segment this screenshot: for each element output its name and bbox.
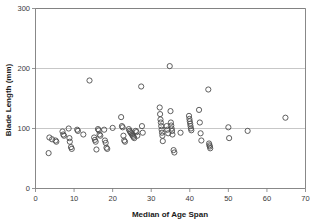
data-point <box>87 78 92 83</box>
data-points <box>46 64 288 156</box>
scatter-plot-figure: 010203040506070 0100200300 Median of Age… <box>0 0 310 223</box>
data-point <box>46 151 51 156</box>
y-tick-label-0: 0 <box>26 184 30 193</box>
x-tick-label-10: 10 <box>70 194 78 203</box>
data-point <box>69 146 74 151</box>
data-point <box>167 64 172 69</box>
data-point <box>140 130 145 135</box>
y-axis-title: Blade Length (mm) <box>4 63 13 136</box>
x-tick-labels: 010203040506070 <box>33 194 309 203</box>
data-point <box>121 133 126 138</box>
y-tick-label-100: 100 <box>17 124 30 133</box>
x-tick-label-0: 0 <box>33 194 37 203</box>
plot-frame <box>36 9 306 189</box>
y-tick-label-200: 200 <box>17 64 30 73</box>
x-tick-label-70: 70 <box>301 194 309 203</box>
data-point <box>168 109 173 114</box>
data-point <box>119 115 124 120</box>
data-point <box>196 107 201 112</box>
data-point <box>198 131 203 136</box>
x-axis-title: Median of Age Span <box>132 210 208 219</box>
x-tick-label-40: 40 <box>186 194 194 203</box>
data-point <box>94 147 99 152</box>
x-tick-label-30: 30 <box>147 194 155 203</box>
data-point <box>160 139 165 144</box>
data-point <box>199 138 204 143</box>
x-tick-label-20: 20 <box>108 194 116 203</box>
x-tick-label-60: 60 <box>263 194 271 203</box>
data-point <box>67 139 72 144</box>
data-point <box>178 130 183 135</box>
x-tick-label-50: 50 <box>224 194 232 203</box>
data-point <box>139 124 144 129</box>
data-point <box>139 84 144 89</box>
data-point <box>102 127 107 132</box>
y-tick-labels: 0100200300 <box>17 4 30 193</box>
chart-canvas: 010203040506070 0100200300 Median of Age… <box>0 0 310 223</box>
y-tick-label-300: 300 <box>17 4 30 13</box>
data-point <box>283 115 288 120</box>
data-point <box>81 132 86 137</box>
data-point <box>197 120 202 125</box>
data-point <box>157 105 162 110</box>
data-point <box>245 128 250 133</box>
data-point <box>110 125 115 130</box>
data-point <box>157 112 162 117</box>
data-point <box>227 136 232 141</box>
y-axis-ticks <box>32 9 36 189</box>
x-axis-ticks <box>36 189 306 193</box>
data-point <box>226 125 231 130</box>
data-point <box>206 87 211 92</box>
